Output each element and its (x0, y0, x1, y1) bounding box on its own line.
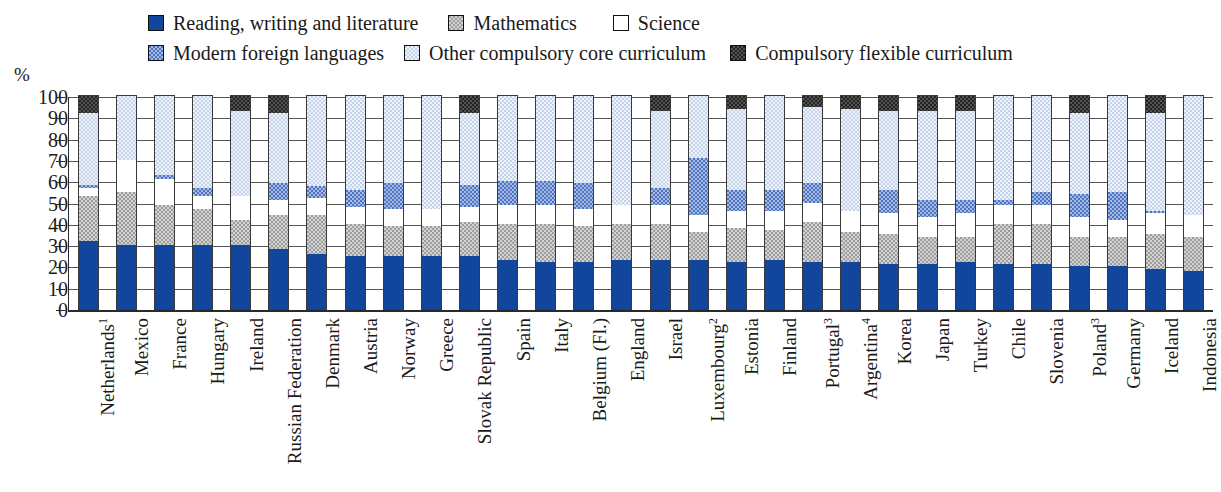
bar-segment-other (803, 107, 822, 184)
x-axis-label-12: Italy (552, 318, 571, 353)
bar-segment-flex (1146, 96, 1165, 113)
bar-15[interactable] (650, 95, 671, 310)
bar-11[interactable] (497, 95, 518, 310)
bar-segment-math (79, 196, 98, 241)
bar-segment-science (307, 198, 326, 215)
bar-2[interactable] (154, 95, 175, 310)
bar-16[interactable] (688, 95, 709, 310)
bar-segment-other (384, 96, 403, 183)
bar-segment-flex (269, 96, 288, 113)
bar-segment-math (803, 222, 822, 262)
bar-segment-other (498, 96, 517, 181)
bar-segment-science (460, 207, 479, 222)
bar-24[interactable] (993, 95, 1014, 310)
bar-1[interactable] (116, 95, 137, 310)
bar-segment-other (460, 113, 479, 185)
bar-27[interactable] (1107, 95, 1128, 310)
legend-item-mathematics[interactable]: Mathematics (448, 13, 576, 33)
x-axis-label-29: Indonesia (1200, 318, 1219, 392)
bar-segment-flex (79, 96, 98, 113)
bar-segment-math (994, 224, 1013, 264)
bar-segment-science (498, 205, 517, 224)
bar-22[interactable] (917, 95, 938, 310)
bar-9[interactable] (421, 95, 442, 310)
bar-segment-math (498, 224, 517, 260)
bar-21[interactable] (878, 95, 899, 310)
bar-25[interactable] (1031, 95, 1052, 310)
bar-13[interactable] (573, 95, 594, 310)
bar-segment-science (765, 211, 784, 230)
bar-28[interactable] (1145, 95, 1166, 310)
bar-segment-other (1146, 113, 1165, 211)
bar-segment-science (612, 205, 631, 224)
bar-0[interactable] (78, 95, 99, 310)
x-axis-label-9: Greece (437, 318, 456, 372)
bar-segment-reading (498, 260, 517, 309)
bar-segment-science (117, 160, 136, 192)
bar-segment-math (689, 232, 708, 260)
legend-item-reading[interactable]: Reading, writing and literature (148, 13, 418, 33)
bar-segment-math (1146, 234, 1165, 268)
bar-segment-math (346, 224, 365, 256)
bar-segment-other (612, 96, 631, 205)
x-axis-label-1: Mexico (132, 318, 151, 376)
bar-segment-reading (1184, 271, 1203, 309)
bar-segment-reading (612, 260, 631, 309)
bar-segment-science (689, 215, 708, 232)
bar-23[interactable] (955, 95, 976, 310)
bar-segment-science (193, 196, 212, 209)
bar-segment-math (1070, 237, 1089, 267)
bar-7[interactable] (345, 95, 366, 310)
x-axis-label-16: Luxembourg2 (704, 318, 727, 422)
bar-segment-science (994, 205, 1013, 224)
bar-segment-other (841, 109, 860, 211)
legend-label-other-compulsory-core: Other compulsory core curriculum (429, 43, 706, 63)
compulsory-flexible-swatch-icon (730, 45, 746, 61)
reading-swatch-icon (148, 15, 164, 31)
bar-19[interactable] (802, 95, 823, 310)
bar-5[interactable] (268, 95, 289, 310)
bar-26[interactable] (1069, 95, 1090, 310)
x-axis-label-27: Germany (1124, 318, 1143, 389)
bar-segment-other (1108, 96, 1127, 192)
legend-label-mathematics: Mathematics (473, 13, 576, 33)
y-tick-mark-70 (56, 161, 65, 162)
bar-segment-other (346, 96, 365, 190)
bar-segment-math (765, 230, 784, 260)
legend-row-bottom: Modern foreign languages Other compulsor… (0, 38, 1221, 68)
bar-6[interactable] (306, 95, 327, 310)
legend-item-science[interactable]: Science (613, 13, 700, 33)
bar-segment-science (155, 179, 174, 205)
bar-segment-other (1184, 96, 1203, 215)
bar-segment-reading (231, 245, 250, 309)
bar-segment-reading (307, 254, 326, 309)
bar-segment-flex (841, 96, 860, 109)
bar-3[interactable] (192, 95, 213, 310)
bar-18[interactable] (764, 95, 785, 310)
bar-29[interactable] (1183, 95, 1204, 310)
bar-segment-science (1070, 217, 1089, 236)
bar-segment-science (536, 205, 555, 224)
other-compulsory-core-swatch-icon (404, 45, 420, 61)
bar-segment-math (193, 209, 212, 245)
bar-12[interactable] (535, 95, 556, 310)
bar-20[interactable] (840, 95, 861, 310)
bar-segment-other (994, 96, 1013, 200)
bar-14[interactable] (611, 95, 632, 310)
bar-segment-reading (689, 260, 708, 309)
bar-segment-math (574, 226, 593, 262)
bar-segment-mfl (307, 186, 326, 199)
x-axis-label-26: Poland3 (1086, 318, 1109, 377)
bar-segment-reading (841, 262, 860, 309)
y-tick-mark-60 (56, 182, 65, 183)
bar-8[interactable] (383, 95, 404, 310)
legend-item-other-compulsory-core[interactable]: Other compulsory core curriculum (404, 43, 706, 63)
bar-10[interactable] (459, 95, 480, 310)
bar-segment-reading (1146, 269, 1165, 309)
bar-segment-reading (346, 256, 365, 309)
legend-item-modern-foreign-languages[interactable]: Modern foreign languages (148, 43, 384, 63)
legend-item-compulsory-flexible[interactable]: Compulsory flexible curriculum (730, 43, 1013, 63)
legend-label-compulsory-flexible: Compulsory flexible curriculum (755, 43, 1013, 63)
bar-17[interactable] (726, 95, 747, 310)
bar-4[interactable] (230, 95, 251, 310)
